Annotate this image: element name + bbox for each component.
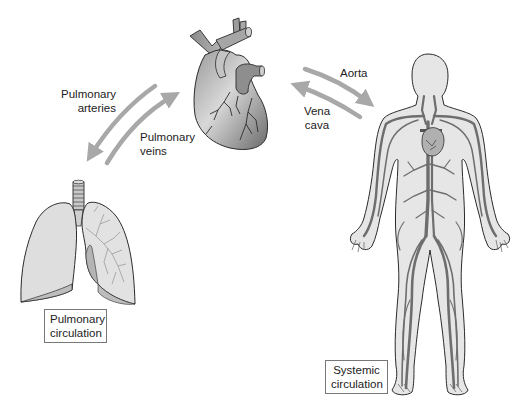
pulmonary-circulation-line1: Pulmonary — [50, 312, 101, 326]
vena-cava-label-line2: cava — [300, 118, 334, 132]
pulmonary-arteries-label-line2: arteries — [46, 101, 116, 115]
pulmonary-arteries-label: Pulmonary arteries — [46, 87, 116, 115]
systemic-circulation-line2: circulation — [331, 377, 382, 391]
heart-illustration — [190, 18, 268, 150]
circulation-diagram: Pulmonary arteries Pulmonary veins Aorta… — [0, 0, 527, 406]
pulmonary-circulation-box: Pulmonary circulation — [44, 309, 107, 343]
pulmonary-arteries-label-line1: Pulmonary — [46, 87, 116, 101]
systemic-circulation-line1: Systemic — [331, 363, 382, 377]
systemic-circulation-box: Systemic circulation — [325, 360, 388, 394]
diagram-canvas — [0, 0, 527, 406]
pulmonary-circulation-line2: circulation — [50, 326, 101, 340]
pulmonary-veins-label-line1: Pulmonary — [140, 130, 195, 144]
pulmonary-veins-label-line2: veins — [140, 144, 195, 158]
pulmonary-veins-label: Pulmonary veins — [140, 130, 195, 158]
human-body-illustration — [350, 54, 509, 395]
aorta-label-text: Aorta — [340, 67, 368, 79]
lungs-illustration — [21, 180, 135, 304]
aorta-label: Aorta — [340, 66, 368, 80]
vena-cava-label: Vena cava — [300, 104, 334, 132]
vena-cava-label-line1: Vena — [300, 104, 334, 118]
